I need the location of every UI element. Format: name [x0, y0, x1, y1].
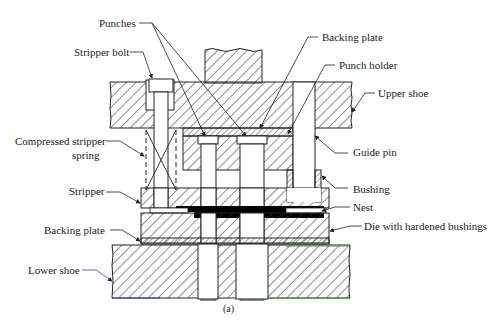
label-die: Die with hardened bushings — [364, 220, 487, 232]
lower-backing-plate — [141, 238, 329, 244]
stripper-bolt-head — [149, 79, 173, 92]
punch-holder — [183, 136, 293, 170]
label-lower-shoe: Lower shoe — [28, 264, 80, 276]
label-nest: Nest — [353, 201, 373, 213]
stripper — [141, 188, 329, 208]
lower-shoe — [112, 244, 350, 299]
label-stripper-bolt: Stripper bolt — [74, 46, 129, 58]
diagram-canvas: Punches Stripper bolt Backing plate Punc… — [0, 0, 496, 329]
label-compressed-spring-2: spring — [72, 149, 100, 161]
nest — [286, 208, 326, 213]
label-guide-pin: Guide pin — [353, 146, 397, 158]
label-backing-plate-top: Backing plate — [322, 31, 383, 43]
nest-left — [150, 208, 188, 213]
label-backing-plate-bottom: Backing plate — [44, 224, 105, 236]
label-upper-shoe: Upper shoe — [378, 87, 429, 99]
upper-backing-plate — [183, 128, 293, 136]
label-bushing: Bushing — [353, 183, 390, 195]
label-punch-holder: Punch holder — [339, 59, 398, 71]
die-set-diagram: Punches Stripper bolt Backing plate Punc… — [0, 0, 496, 329]
figure-caption: (a) — [223, 303, 234, 315]
label-compressed-spring-1: Compressed stripper — [15, 135, 106, 147]
label-stripper: Stripper — [69, 185, 105, 197]
label-punches: Punches — [99, 17, 136, 29]
